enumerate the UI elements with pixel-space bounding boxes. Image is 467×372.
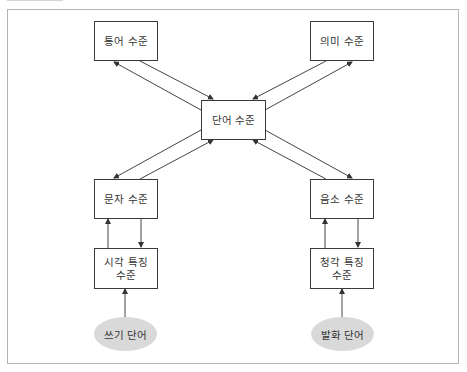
node-spoken-word: 발화 단어 (311, 317, 374, 351)
node-label: 발화 단어 (321, 327, 364, 342)
connector-layer (0, 0, 467, 372)
node-written-word: 쓰기 단어 (94, 317, 157, 351)
node-label: 문자 수준 (104, 193, 147, 206)
edge-letter-to-word (140, 140, 213, 179)
edge-word-to-letter (114, 130, 201, 178)
node-label: 통어 수준 (104, 35, 147, 48)
edge-syntax-to-word (140, 61, 213, 99)
node-auditory-feature-level: 청각 특징 수준 (310, 248, 374, 289)
node-syntax-level: 통어 수준 (94, 21, 158, 61)
node-label: 의미 수준 (320, 35, 363, 48)
node-label: 시각 특징 수준 (104, 256, 147, 282)
node-word-level: 단어 수준 (201, 100, 266, 140)
edge-word-to-phoneme (265, 130, 352, 178)
node-phoneme-level: 음소 수준 (310, 179, 374, 219)
node-label: 단어 수준 (212, 114, 255, 127)
node-visual-feature-level: 시각 특징 수준 (94, 248, 158, 289)
node-semantic-level: 의미 수준 (310, 21, 374, 61)
node-label: 청각 특징 수준 (320, 256, 363, 282)
edge-semantic-to-word (253, 61, 326, 99)
edge-phoneme-to-word (253, 140, 326, 179)
node-label: 쓰기 단어 (104, 327, 147, 342)
node-label: 음소 수준 (320, 193, 363, 206)
node-letter-level: 문자 수준 (94, 179, 158, 219)
